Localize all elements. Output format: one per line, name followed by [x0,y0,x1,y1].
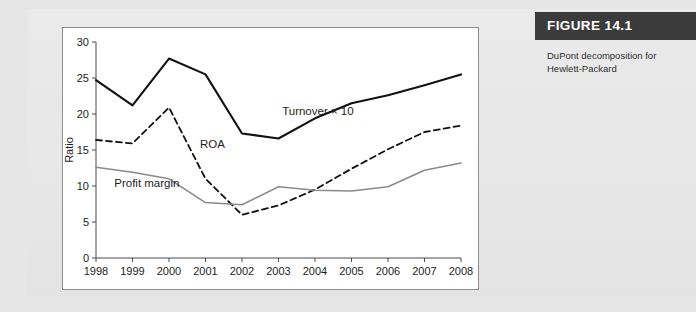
figure-description: DuPont decomposition for Hewlett-Packard [535,40,696,75]
dupont-line-chart: 0510152025301998199920002001200220032004… [62,27,479,290]
y-tick-label: 25 [77,72,89,84]
x-tick-label: 2006 [376,265,400,277]
series-annotation: ROA [200,138,225,150]
y-tick-label: 0 [83,252,89,264]
y-tick-label: 5 [83,216,89,228]
y-tick-label: 30 [77,36,89,48]
figure-number-banner: FIGURE 14.1 [535,12,696,40]
x-tick-label: 1998 [84,265,108,277]
y-axis-title: Ratio [63,137,75,163]
x-tick-label: 2004 [303,265,327,277]
series-line-roa [96,108,461,215]
x-tick-label: 1999 [120,265,144,277]
y-tick-label: 20 [77,108,89,120]
series-annotation: Turnover × 10 [282,105,354,117]
x-tick-label: 2005 [339,265,363,277]
x-tick-label: 2002 [230,265,254,277]
y-tick-label: 10 [77,180,89,192]
x-tick-label: 2003 [266,265,290,277]
y-tick-label: 15 [77,144,89,156]
x-tick-label: 2007 [412,265,436,277]
figure-page: 0510152025301998199920002001200220032004… [0,0,696,312]
x-tick-label: 2000 [157,265,181,277]
x-tick-label: 2008 [449,265,473,277]
figure-caption: FIGURE 14.1 DuPont decomposition for Hew… [535,12,696,75]
x-tick-label: 2001 [193,265,217,277]
series-annotation: Profit margin [114,177,179,189]
